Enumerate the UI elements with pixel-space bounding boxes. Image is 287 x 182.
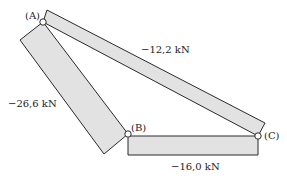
force-label-bc: −16,0 kN xyxy=(171,161,220,172)
node-a xyxy=(40,19,46,25)
force-label-ac: −12,2 kN xyxy=(141,44,190,55)
truss-diagram: (A) (B) (C) −12,2 kN −26,6 kN −16,0 kN xyxy=(0,0,287,182)
node-c-label: (C) xyxy=(264,130,280,141)
member-ab xyxy=(20,22,128,154)
node-b-label: (B) xyxy=(131,122,146,133)
member-bc xyxy=(128,136,258,155)
node-c xyxy=(255,133,261,139)
force-label-ab: −26,6 kN xyxy=(8,98,57,109)
node-a-label: (A) xyxy=(25,10,40,21)
